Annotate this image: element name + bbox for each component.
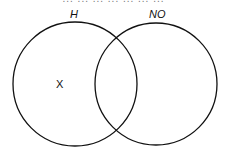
set-no-circle bbox=[95, 23, 217, 145]
set-no-label: NO bbox=[149, 8, 166, 20]
venn-diagram bbox=[0, 0, 227, 151]
set-h-label: H bbox=[70, 8, 78, 20]
x-mark: X bbox=[56, 78, 63, 90]
set-h-circle bbox=[13, 22, 137, 146]
